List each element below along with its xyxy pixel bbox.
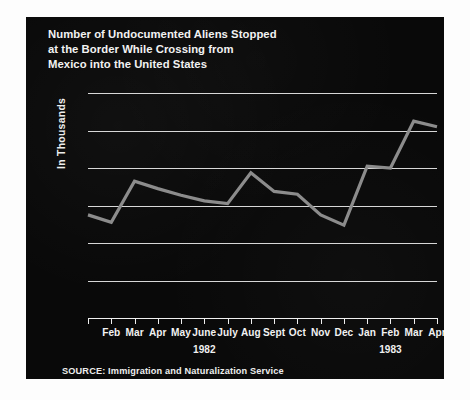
plot-area: 0204060801001200: [88, 93, 437, 318]
x-tick-label-nov-10: Nov: [311, 327, 330, 338]
x-tick-6: [228, 318, 229, 324]
x-tick-4: [181, 318, 182, 324]
chart-panel: Number of Undocumented Aliens Stopped at…: [26, 17, 444, 379]
y-axis-label: In Thousands: [56, 98, 67, 169]
data-line-series: [88, 93, 437, 318]
x-tick-label-may-4: May: [171, 327, 191, 338]
chart-figure: Number of Undocumented Aliens Stopped at…: [0, 0, 470, 400]
chart-title-line-2: at the Border While Crossing from: [48, 42, 388, 57]
x-tick-12: [367, 318, 368, 324]
x-tick-8: [274, 318, 275, 324]
x-tick-label-feb-1: Feb: [102, 327, 120, 338]
x-tick-2: [135, 318, 136, 324]
chart-title: Number of Undocumented Aliens Stopped at…: [48, 27, 388, 73]
x-tick-label-mar-2: Mar: [125, 327, 143, 338]
x-tick-label-june-5: June: [192, 327, 216, 338]
chart-title-line-1: Number of Undocumented Aliens Stopped: [48, 27, 388, 42]
x-tick-label-aug-7: Aug: [241, 327, 261, 338]
x-tick-5: [204, 318, 205, 324]
x-tick-0: [88, 318, 89, 324]
year-label-1983: 1983: [379, 344, 401, 355]
source-note: SOURCE: Immigration and Naturalization S…: [62, 366, 284, 376]
x-tick-label-mar-14: Mar: [405, 327, 423, 338]
x-tick-label-apr-3: Apr: [149, 327, 167, 338]
x-tick-10: [321, 318, 322, 324]
x-tick-label-dec-11: Dec: [335, 327, 354, 338]
x-tick-label-jan-12: Jan: [358, 327, 376, 338]
x-tick-7: [251, 318, 252, 324]
x-tick-11: [344, 318, 345, 324]
x-tick-label-july-6: July: [217, 327, 238, 338]
x-tick-label-sept-8: Sept: [263, 327, 285, 338]
x-tick-13: [390, 318, 391, 324]
x-tick-9: [297, 318, 298, 324]
x-tick-14: [414, 318, 415, 324]
x-tick-label-apr-15: Apr: [428, 327, 444, 338]
chart-title-line-3: Mexico into the United States: [48, 57, 388, 72]
x-axis: [88, 318, 437, 319]
x-tick-1: [111, 318, 112, 324]
x-tick-3: [158, 318, 159, 324]
series-polyline: [88, 121, 437, 225]
year-label-1982: 1982: [193, 344, 215, 355]
x-tick-label-feb-13: Feb: [381, 327, 399, 338]
x-tick-label-oct-9: Oct: [289, 327, 306, 338]
x-tick-15: [437, 318, 438, 324]
